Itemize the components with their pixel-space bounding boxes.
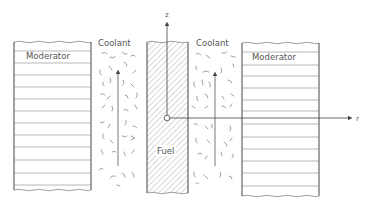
fuel-label: Fuel — [157, 146, 174, 156]
coolant-right-label: Coolant — [196, 38, 229, 48]
coolant-right: Coolant — [192, 38, 235, 184]
r-axis-label: r — [356, 115, 359, 123]
moderator-right-label: Moderator — [252, 52, 296, 62]
moderator-left-label: Moderator — [26, 51, 70, 61]
reactor-slab-diagram: Moderator Coolant Fuel Coolant — [0, 0, 366, 207]
coordinate-axes: z r — [164, 11, 359, 123]
z-axis-label: z — [165, 11, 169, 19]
origin-marker — [164, 115, 170, 121]
coolant-left-label: Coolant — [98, 38, 131, 48]
moderator-right: Moderator — [242, 42, 319, 197]
moderator-left: Moderator — [14, 41, 91, 191]
coolant-left: Coolant — [98, 38, 137, 186]
